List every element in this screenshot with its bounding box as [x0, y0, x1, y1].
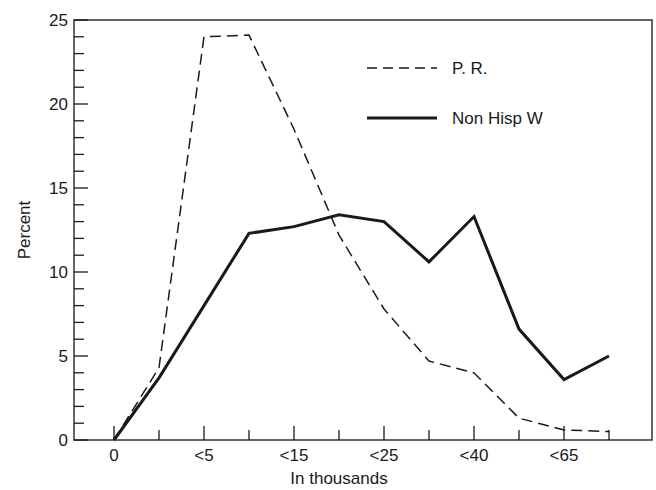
y-axis: 0510152025 — [49, 11, 88, 450]
x-tick-label: 0 — [109, 446, 118, 465]
x-axis: 0<5<15<25<40<65 — [109, 426, 609, 465]
y-tick-label: 15 — [49, 179, 68, 198]
legend-label-non-hisp-w: Non Hisp W — [452, 109, 543, 128]
legend-label-pr: P. R. — [452, 59, 488, 78]
x-tick-label: <15 — [280, 446, 309, 465]
legend-item-non-hisp-w: Non Hisp W — [367, 109, 543, 128]
y-tick-label: 5 — [59, 347, 68, 366]
x-tick-label: <25 — [370, 446, 399, 465]
x-tick-label: <65 — [550, 446, 579, 465]
legend: P. R. Non Hisp W — [367, 59, 543, 128]
series-layer — [114, 35, 609, 440]
x-axis-title: In thousands — [290, 469, 387, 488]
y-tick-label: 10 — [49, 263, 68, 282]
series-line-non-hisp-w — [114, 215, 609, 440]
line-chart: 0510152025 0<5<15<25<40<65 Percent In th… — [0, 0, 656, 490]
legend-item-pr: P. R. — [367, 59, 488, 78]
y-tick-label: 0 — [59, 431, 68, 450]
x-tick-label: <40 — [460, 446, 489, 465]
y-tick-label: 20 — [49, 95, 68, 114]
y-tick-label: 25 — [49, 11, 68, 30]
y-axis-title: Percent — [15, 200, 34, 259]
x-tick-label: <5 — [194, 446, 213, 465]
series-line-pr — [114, 35, 609, 440]
